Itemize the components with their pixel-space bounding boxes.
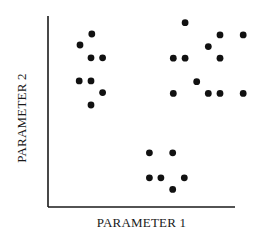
data-point bbox=[182, 19, 189, 26]
x-axis-label: PARAMETER 1 bbox=[48, 215, 235, 231]
data-point bbox=[181, 174, 188, 181]
data-point bbox=[170, 55, 177, 62]
scatter-plot bbox=[0, 0, 259, 241]
data-point bbox=[217, 90, 224, 97]
y-axis-label: PARAMETER 2 bbox=[14, 73, 30, 163]
data-point bbox=[169, 186, 176, 193]
data-point bbox=[99, 54, 106, 61]
data-point bbox=[88, 31, 95, 38]
data-point bbox=[182, 55, 189, 62]
data-point bbox=[240, 32, 247, 39]
data-point bbox=[146, 174, 153, 181]
data-point bbox=[169, 149, 176, 156]
data-point bbox=[240, 90, 247, 97]
data-point bbox=[170, 90, 177, 97]
data-point bbox=[217, 55, 224, 62]
data-point bbox=[88, 78, 95, 85]
data-point bbox=[217, 32, 224, 39]
data-point bbox=[146, 149, 153, 156]
data-point bbox=[205, 43, 212, 50]
data-point bbox=[88, 54, 95, 61]
data-point bbox=[99, 89, 106, 96]
data-points bbox=[76, 19, 247, 193]
data-point bbox=[158, 174, 165, 181]
data-point bbox=[193, 78, 200, 85]
data-point bbox=[76, 78, 83, 85]
data-point bbox=[77, 42, 84, 49]
data-point bbox=[205, 90, 212, 97]
data-point bbox=[88, 102, 95, 109]
